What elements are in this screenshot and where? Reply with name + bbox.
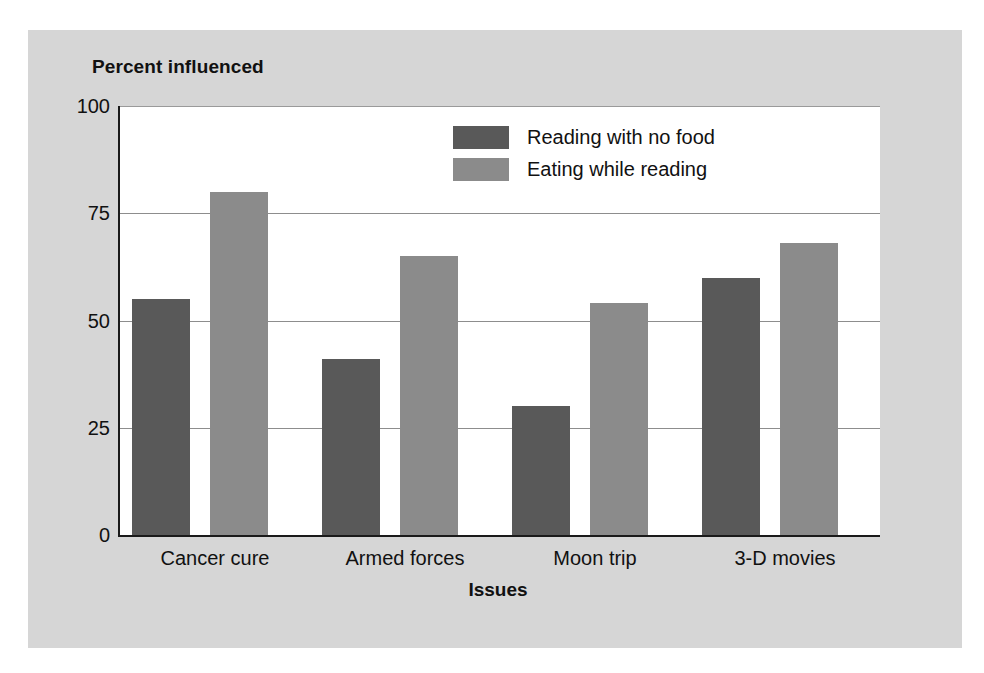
legend-item: Reading with no food (453, 126, 715, 149)
bar (132, 299, 190, 535)
bar (322, 359, 380, 535)
y-tick-label-50: 50 (88, 309, 110, 332)
chart-legend: Reading with no foodEating while reading (453, 126, 715, 190)
bar (512, 406, 570, 535)
bar-group: 3-D movies (690, 106, 880, 535)
bar (400, 256, 458, 535)
x-tick-label: Moon trip (500, 547, 690, 570)
legend-swatch-icon (453, 158, 509, 181)
bar-group: Cancer cure (120, 106, 310, 535)
legend-label: Eating while reading (527, 158, 707, 181)
x-axis-title: Issues (118, 579, 878, 601)
legend-label: Reading with no food (527, 126, 715, 149)
x-tick-label: 3-D movies (690, 547, 880, 570)
bar (702, 278, 760, 535)
x-tick-label: Cancer cure (120, 547, 310, 570)
y-tick-label-0: 0 (99, 524, 110, 547)
x-tick-label: Armed forces (310, 547, 500, 570)
y-tick-label-100: 100 (77, 95, 110, 118)
y-tick-label-75: 75 (88, 202, 110, 225)
legend-item: Eating while reading (453, 158, 715, 181)
bar (780, 243, 838, 535)
legend-swatch-icon (453, 126, 509, 149)
y-tick-label-25: 25 (88, 416, 110, 439)
bar (590, 303, 648, 535)
y-axis-title: Percent influenced (92, 56, 264, 78)
bar (210, 192, 268, 535)
figure-panel: Percent influenced 0255075100 Cancer cur… (28, 30, 962, 648)
